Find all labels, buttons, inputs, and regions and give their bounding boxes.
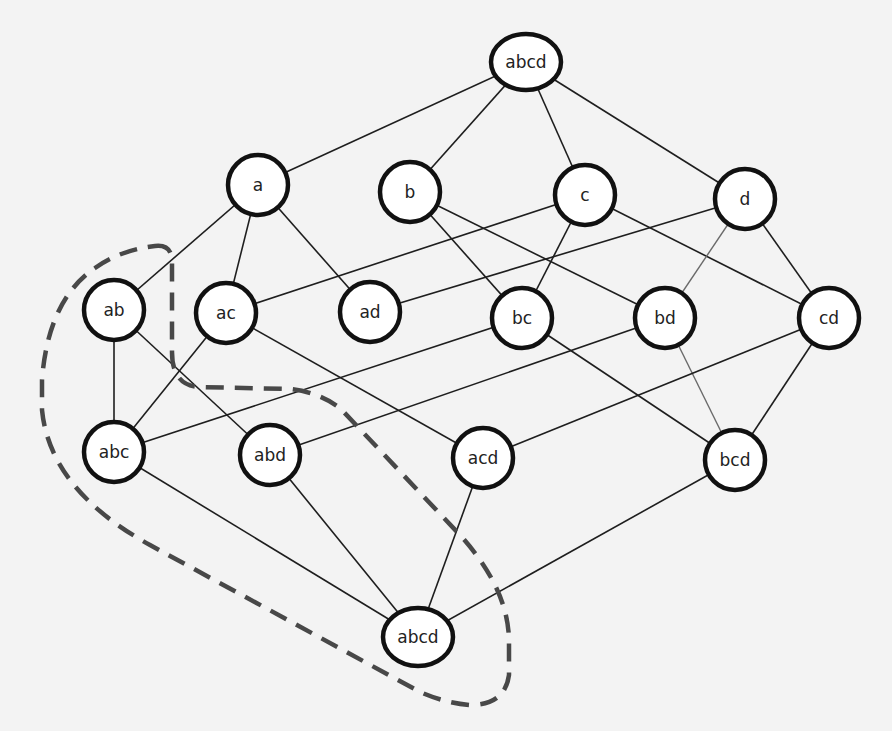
node-top: abcd bbox=[491, 34, 561, 90]
node-ab: ab bbox=[84, 280, 144, 340]
node-label: ad bbox=[359, 302, 380, 322]
node-label: ac bbox=[216, 303, 236, 323]
node-d: d bbox=[715, 169, 775, 229]
node-abc: abc bbox=[84, 422, 144, 482]
node-c: c bbox=[555, 165, 615, 225]
node-label: ab bbox=[103, 300, 124, 320]
node-label: d bbox=[740, 189, 751, 209]
node-label: bc bbox=[512, 308, 532, 328]
edge-bcd-bottom bbox=[418, 460, 735, 637]
node-label: abcd bbox=[397, 627, 438, 647]
node-abd: abd bbox=[240, 425, 300, 485]
node-bd: bd bbox=[635, 288, 695, 348]
node-cd: cd bbox=[799, 288, 859, 348]
node-a: a bbox=[228, 155, 288, 215]
node-bc: bc bbox=[492, 288, 552, 348]
subset-lattice-diagram: abcdabcdabacadbcbdcdabcabdacdbcdabcd bbox=[0, 0, 892, 731]
node-label: a bbox=[253, 175, 263, 195]
edge-bc-abc bbox=[114, 318, 522, 452]
node-label: b bbox=[405, 182, 416, 202]
node-label: abcd bbox=[505, 52, 546, 72]
node-ac: ac bbox=[196, 283, 256, 343]
node-ad: ad bbox=[340, 282, 400, 342]
node-label: bcd bbox=[720, 450, 751, 470]
node-acd: acd bbox=[453, 428, 513, 488]
node-label: c bbox=[580, 185, 589, 205]
node-label: acd bbox=[468, 448, 499, 468]
node-label: bd bbox=[654, 308, 676, 328]
node-bcd: bcd bbox=[705, 430, 765, 490]
edge-abd-bottom bbox=[270, 455, 418, 637]
node-b: b bbox=[380, 162, 440, 222]
edge-bc-bcd bbox=[522, 318, 735, 460]
node-label: cd bbox=[819, 308, 839, 328]
node-label: abd bbox=[254, 445, 286, 465]
node-bottom: abcd bbox=[383, 608, 453, 666]
node-label: abc bbox=[99, 442, 130, 462]
